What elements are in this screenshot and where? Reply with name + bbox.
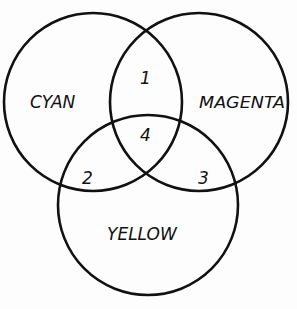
label-cyan: CYAN xyxy=(30,92,76,112)
label-yellow: YELLOW xyxy=(107,224,178,244)
region-label-1: 1 xyxy=(140,68,151,88)
region-label-2: 2 xyxy=(82,168,93,188)
region-label-3: 3 xyxy=(198,168,209,188)
label-magenta: MAGENTA xyxy=(199,93,285,112)
region-label-4: 4 xyxy=(140,125,151,145)
venn-diagram: CYAN MAGENTA YELLOW 1 4 2 3 xyxy=(0,0,297,309)
